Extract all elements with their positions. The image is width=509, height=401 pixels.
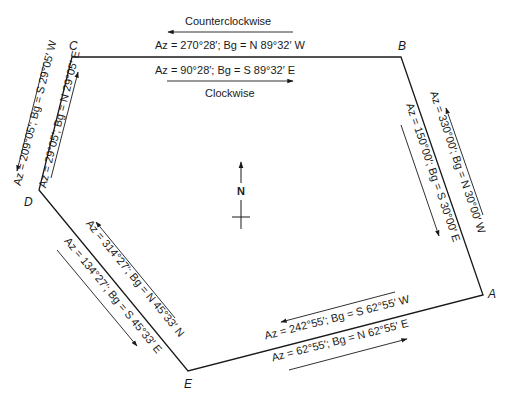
vertex-label-e: E — [184, 378, 192, 390]
bearing-label-bc-clockwise: Az = 90°28′; Bg = S 89°32′ E — [155, 65, 295, 76]
clockwise-label: Clockwise — [205, 88, 255, 99]
vertex-label-a: A — [488, 288, 496, 300]
north-label: N — [237, 186, 245, 197]
vertex-label-d: D — [24, 196, 33, 208]
vertex-label-b: B — [398, 40, 406, 52]
counterclockwise-label: Counterclockwise — [185, 16, 271, 27]
bearing-label-bc-counterclockwise: Az = 270°28′; Bg = N 89°32′ W — [155, 40, 305, 51]
